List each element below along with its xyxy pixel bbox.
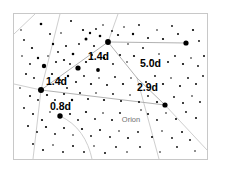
- star-dot: [171, 137, 173, 139]
- star-dot: [202, 75, 204, 77]
- star-dot: [177, 33, 179, 35]
- star-dot: [87, 98, 89, 100]
- star-dot: [63, 127, 65, 129]
- star-dot: [99, 129, 101, 131]
- star-dot: [36, 131, 38, 133]
- star-dot: [171, 25, 173, 27]
- star-dot: [29, 63, 31, 65]
- star-chart: Orion 1.4d5.0d1.4d2.9d0.8d: [0, 0, 225, 172]
- star-dot: [46, 94, 48, 96]
- star-dot: [49, 33, 51, 35]
- star-dot: [126, 61, 128, 63]
- star-dot: [203, 55, 205, 57]
- bright-star-dot: [75, 65, 80, 70]
- star-dot: [182, 102, 184, 104]
- star-dot: [63, 93, 65, 95]
- star-dot: [151, 136, 153, 138]
- star-dot: [99, 35, 102, 38]
- star-dot: [75, 81, 77, 83]
- star-dot: [54, 133, 56, 135]
- star-dot: [115, 146, 117, 148]
- star-dot: [181, 131, 183, 133]
- star-dot: [117, 34, 119, 36]
- star-dot: [85, 61, 87, 63]
- star-dot: [102, 112, 104, 114]
- star-dot: [90, 135, 92, 137]
- star-dot: [52, 144, 54, 146]
- star-dot: [52, 43, 54, 45]
- star-dot: [23, 39, 25, 41]
- star-dot: [156, 101, 158, 103]
- star-dot: [191, 95, 193, 97]
- star-dot: [176, 146, 178, 148]
- star-dot: [23, 107, 25, 109]
- star-dot: [72, 134, 74, 136]
- bright-star-dot: [38, 87, 44, 93]
- star-dot: [45, 126, 47, 128]
- star-dot: [55, 61, 57, 63]
- star-dot: [41, 119, 43, 121]
- sep-5-0: 5.0d: [140, 57, 161, 69]
- star-dot: [187, 77, 189, 79]
- sep-2-9: 2.9d: [137, 81, 158, 93]
- star-dot: [21, 55, 23, 57]
- bright-star-dot: [57, 113, 62, 118]
- star-dot: [69, 63, 71, 65]
- star-dot: [119, 54, 121, 56]
- star-dot: [189, 139, 191, 141]
- star-dot: [147, 37, 149, 39]
- bright-star-dot: [105, 39, 111, 45]
- star-dot: [102, 24, 104, 26]
- star-dot: [27, 125, 29, 127]
- star-dot: [195, 83, 197, 85]
- constellation-labels: Orion: [122, 115, 140, 124]
- star-dot: [192, 29, 194, 31]
- orion-label: Orion: [122, 115, 140, 124]
- bright-star-dot: [42, 64, 46, 68]
- star-dot: [77, 119, 79, 121]
- star-dot: [32, 143, 34, 145]
- star-dot: [85, 38, 88, 41]
- star-dot: [179, 85, 181, 87]
- star-dot: [162, 83, 164, 85]
- star-dot: [81, 128, 83, 130]
- star-dot: [66, 87, 68, 89]
- star-dot: [126, 151, 128, 153]
- star-dot: [174, 55, 176, 57]
- star-dot: [112, 63, 114, 65]
- star-dot: [132, 33, 134, 35]
- star-dot: [190, 57, 192, 59]
- star-dot: [37, 57, 39, 59]
- star-dot: [25, 73, 27, 75]
- star-dot: [114, 76, 116, 78]
- bright-star-dot: [183, 40, 188, 45]
- star-dot: [158, 53, 160, 55]
- sep-1-4-upper: 1.4d: [88, 50, 109, 62]
- star-dot: [127, 43, 129, 45]
- star-dot: [72, 53, 75, 56]
- star-dot: [119, 112, 121, 114]
- star-dot: [129, 94, 131, 96]
- bright-star-dot: [96, 68, 100, 72]
- star-dot: [63, 59, 65, 61]
- star-dot: [20, 29, 22, 31]
- star-dot: [93, 45, 95, 47]
- star-dot: [109, 136, 111, 138]
- star-dot: [147, 95, 149, 97]
- star-dot: [82, 29, 84, 31]
- star-dot: [142, 47, 144, 49]
- star-dot: [173, 96, 175, 98]
- star-dot: [33, 77, 35, 79]
- star-dot: [130, 77, 132, 79]
- star-dot: [83, 151, 85, 153]
- star-dot: [122, 83, 124, 85]
- star-dot: [159, 151, 161, 153]
- star-dot: [37, 99, 39, 101]
- star-dot: [140, 109, 142, 111]
- star-dot: [165, 112, 167, 114]
- star-dot: [95, 28, 97, 30]
- star-dot: [31, 47, 33, 49]
- star-dot: [139, 146, 141, 148]
- star-dot: [167, 61, 169, 63]
- star-dot: [175, 118, 177, 120]
